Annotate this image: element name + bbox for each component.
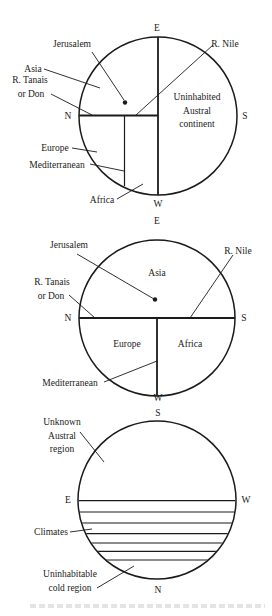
diagram-1-world-map: E S W N Jerusalem Asia R. Tanais or Don … <box>12 23 247 209</box>
mediterranean-leader <box>90 164 124 171</box>
mediterranean-leader <box>104 361 157 382</box>
label-africa: Africa <box>90 195 115 205</box>
compass-north: N <box>155 585 162 595</box>
compass-south: S <box>155 408 160 418</box>
label-europe: Europe <box>113 339 140 349</box>
label-tanais-1: R. Tanais <box>12 75 48 85</box>
jerusalem-dot <box>123 100 127 104</box>
compass-west: W <box>154 393 163 403</box>
jerusalem-leader <box>77 254 154 299</box>
europe-leader <box>72 148 97 152</box>
label-unknown-1: Unknown <box>43 417 81 427</box>
label-tanais-1: R. Tanais <box>34 277 70 287</box>
label-jerusalem: Jerusalem <box>50 240 89 250</box>
label-jerusalem: Jerusalem <box>53 39 92 49</box>
label-nile: R. Nile <box>211 39 238 49</box>
jerusalem-leader <box>92 52 124 100</box>
cut-off-caption-text <box>30 604 265 608</box>
jerusalem-dot <box>153 297 157 301</box>
climates-leader <box>70 529 92 532</box>
label-cold-2: cold region <box>48 583 91 593</box>
globe-outline <box>78 421 236 579</box>
label-europe: Europe <box>41 143 68 153</box>
compass-east: E <box>65 495 71 505</box>
diagram-2-t-o-map: E S W N Jerusalem Asia R. Tanais or Don … <box>34 216 252 403</box>
compass-north: N <box>65 313 72 323</box>
label-austral-1: Uninhabited <box>174 92 221 102</box>
unknown-austral-leader <box>80 432 104 462</box>
compass-east: E <box>154 216 160 226</box>
label-climates: Climates <box>34 527 68 537</box>
label-unknown-3: region <box>50 444 75 454</box>
compass-north: N <box>65 111 72 121</box>
label-mediterranean: Mediterranean <box>29 160 85 170</box>
label-austral-2: Austral <box>183 106 211 116</box>
nile-line <box>136 45 213 115</box>
label-asia: Asia <box>24 64 42 74</box>
label-africa: Africa <box>178 339 203 349</box>
compass-south: S <box>242 111 247 121</box>
t-o-map-diagrams: E S W N Jerusalem Asia R. Tanais or Don … <box>0 0 272 616</box>
label-tanais-2: or Don <box>38 291 65 301</box>
label-nile: R. Nile <box>224 246 251 256</box>
label-mediterranean: Mediterranean <box>42 378 98 388</box>
compass-west: W <box>242 495 251 505</box>
compass-south: S <box>241 313 246 323</box>
label-asia: Asia <box>148 268 166 278</box>
compass-east: E <box>154 23 160 33</box>
label-tanais-2: or Don <box>18 89 45 99</box>
label-austral-3: continent <box>179 119 215 129</box>
tanais-leader <box>51 94 92 115</box>
diagram-3-climate-zones: S W N E Unknown Austral region Climates … <box>34 408 250 595</box>
label-cold-1: Uninhabitable <box>43 569 97 579</box>
nile-line <box>190 255 233 318</box>
compass-west: W <box>154 199 163 209</box>
cold-region-leader <box>97 566 134 588</box>
label-unknown-2: Austral <box>48 431 76 441</box>
